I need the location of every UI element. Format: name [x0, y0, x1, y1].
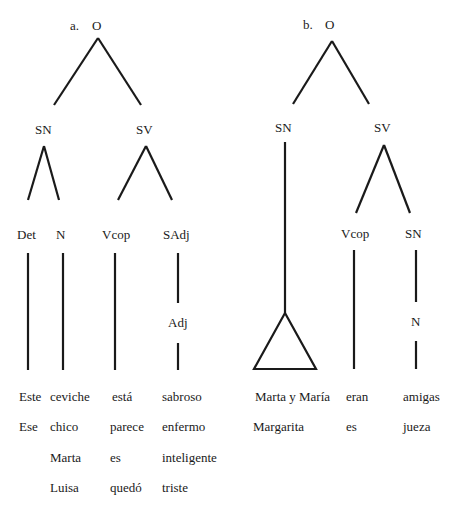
edge-sv-vcop: [118, 146, 146, 200]
tree-a-node-sadj: SAdj: [163, 227, 190, 242]
tree-b-marker: b.: [303, 17, 313, 32]
tree-b: b. O SN SV Vcop SN N Marta y María Marga…: [253, 17, 440, 434]
word-vcop-0: está: [112, 389, 132, 404]
edge-o-sn: [54, 38, 98, 105]
tree-a-marker: a.: [70, 18, 79, 33]
word-sadj-1: enfermo: [162, 419, 205, 434]
tree-b-node-n: N: [411, 314, 421, 329]
word-det-1: Ese: [19, 419, 38, 434]
syntax-tree-diagram: a. O SN SV Det N Vcop SAdj Adj Este Ese …: [0, 0, 452, 516]
tree-b-node-sn: SN: [275, 120, 292, 135]
tree-a-root-o: O: [92, 18, 101, 33]
tree-a-node-adj: Adj: [168, 315, 188, 330]
tree-b-node-sn2: SN: [405, 226, 422, 241]
edge-o-sv: [98, 38, 141, 105]
word-sadj-3: triste: [162, 480, 188, 495]
edge-o-sv: [332, 41, 369, 104]
tree-a-node-sn: SN: [35, 122, 52, 137]
word-det-0: Este: [19, 389, 42, 404]
tree-a-node-vcop: Vcop: [102, 227, 130, 242]
tree-a-node-n: N: [56, 227, 66, 242]
edge-sv-vcop: [356, 145, 384, 213]
word-vcop-2: es: [110, 450, 121, 465]
word-vcop-1: parece: [110, 419, 144, 434]
word-sn2-0: amigas: [403, 389, 440, 404]
edge-sv-sadj: [146, 146, 172, 200]
edge-sv-sn: [384, 145, 410, 213]
word-sn2-1: jueza: [402, 419, 431, 434]
tree-b-node-sv: SV: [374, 120, 391, 135]
edge-sn-det: [28, 146, 44, 200]
tree-a: a. O SN SV Det N Vcop SAdj Adj Este Ese …: [17, 18, 217, 495]
word-vcop-0: eran: [346, 389, 369, 404]
word-n-2: Marta: [50, 450, 81, 465]
word-sadj-0: sabroso: [162, 389, 202, 404]
edge-o-sn: [293, 41, 332, 104]
word-vcop-3: quedó: [110, 480, 142, 495]
word-sadj-2: inteligente: [162, 450, 217, 465]
word-sn-1: Margarita: [253, 419, 304, 434]
tree-b-node-vcop: Vcop: [341, 226, 369, 241]
tree-a-node-det: Det: [17, 227, 36, 242]
word-n-3: Luisa: [50, 480, 79, 495]
word-sn-0: Marta y María: [255, 389, 330, 404]
tree-b-root-o: O: [325, 17, 334, 32]
tree-a-node-sv: SV: [136, 122, 153, 137]
word-n-0: ceviche: [50, 389, 90, 404]
word-n-1: chico: [50, 419, 78, 434]
triangle-abbreviation-icon: [254, 313, 316, 369]
word-vcop-1: es: [346, 419, 357, 434]
edge-sn-n: [44, 146, 59, 200]
